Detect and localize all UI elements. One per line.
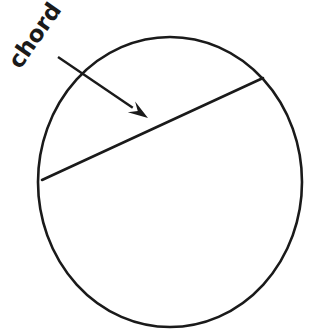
diagram-svg: chord [0,0,323,333]
chord-label: chord [3,0,67,73]
chord-diagram-canvas: chord [0,0,323,333]
arrow-shaft [58,57,133,108]
arrow-head-icon [128,101,148,118]
circle-outline [38,37,302,327]
chord-line [42,78,263,180]
